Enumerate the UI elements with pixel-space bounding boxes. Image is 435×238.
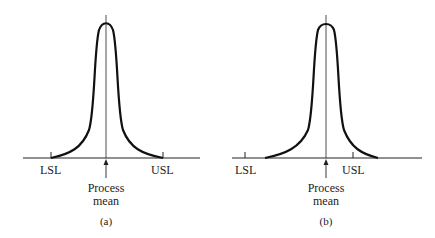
panel-b-distribution-curve <box>265 24 378 158</box>
panel-b-usl-label: USL <box>342 163 365 177</box>
panel-a-mean-label-line1: Process <box>88 181 125 195</box>
panel-b-arrowhead-icon <box>324 159 329 165</box>
process-capability-diagram: LSL USL Process mean (a) LSL USL Process… <box>0 0 435 238</box>
panel-a: LSL USL Process mean (a) <box>23 15 200 228</box>
panel-a-arrowhead-icon <box>104 159 109 165</box>
panel-b-lsl-label: LSL <box>235 163 256 177</box>
panel-b-caption: (b) <box>320 215 333 228</box>
panel-b-mean-label-line1: Process <box>308 181 345 195</box>
panel-a-distribution-curve <box>51 23 163 158</box>
panel-a-usl-label: USL <box>151 163 174 177</box>
panel-b-mean-label-line2: mean <box>313 194 339 208</box>
panel-a-mean-label-line2: mean <box>93 194 119 208</box>
panel-b: LSL USL Process mean (b) <box>232 15 422 228</box>
panel-a-caption: (a) <box>100 215 113 228</box>
panel-a-lsl-label: LSL <box>40 163 61 177</box>
